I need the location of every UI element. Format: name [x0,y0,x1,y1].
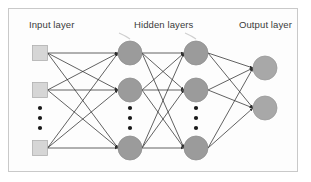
connection-edge [208,108,253,148]
connection-edge [208,53,253,68]
hidden2-node [184,78,208,102]
diagram-canvas: Input layer Hidden layers Output layer [0,0,311,182]
hidden1-node [118,41,142,65]
input-node [33,46,48,61]
hidden1-node [118,78,142,102]
input-ellipsis-dot [38,106,42,110]
hidden1-ellipsis-dot [128,126,132,130]
hidden2-ellipsis-dot [194,116,198,120]
pointer-hidden2 [185,33,196,39]
input-node [33,141,48,156]
input-ellipsis-dot [38,116,42,120]
connection-edge [208,68,253,90]
hidden1-ellipsis-dot [128,106,132,110]
connection-edge [208,90,253,108]
connection-edges [48,53,254,148]
hidden2-ellipsis-dot [194,126,198,130]
network-nodes [33,41,278,160]
pointer-hidden1 [119,33,130,39]
output-layer-label: Output layer [239,19,292,30]
hidden2-node [184,136,208,160]
hidden-layer-pointers [119,33,196,39]
hidden1-ellipsis-dot [128,116,132,120]
hidden-layers-label: Hidden layers [134,19,193,30]
input-layer-label: Input layer [29,19,74,30]
input-node [33,83,48,98]
input-ellipsis-dot [38,126,42,130]
output-node [253,56,277,80]
hidden2-node [184,41,208,65]
output-node [253,96,277,120]
ellipsis-dots [38,106,198,130]
hidden1-node [118,136,142,160]
hidden2-ellipsis-dot [194,106,198,110]
